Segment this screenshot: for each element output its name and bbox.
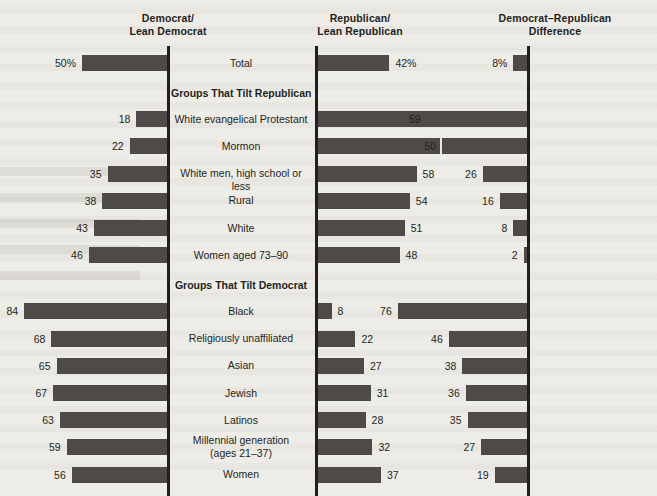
bar-republican bbox=[318, 467, 381, 483]
bar-difference bbox=[442, 138, 527, 154]
value-label-difference: 59 bbox=[363, 111, 421, 127]
bar-difference bbox=[495, 467, 527, 483]
group-heading: Groups That Tilt Democrat bbox=[171, 279, 311, 291]
value-label-difference: 35 bbox=[404, 412, 462, 428]
category-label: Millennial generation (ages 21–37) bbox=[172, 434, 310, 460]
bar-democrat bbox=[67, 439, 167, 455]
value-label-democrat: 43 bbox=[30, 220, 88, 236]
bar-republican bbox=[318, 439, 372, 455]
axis-line-democrat bbox=[167, 46, 170, 496]
value-label-difference: 8% bbox=[449, 55, 507, 71]
value-label-difference: 26 bbox=[419, 166, 477, 182]
category-label: Asian bbox=[172, 359, 310, 372]
value-label-democrat: 18 bbox=[72, 111, 130, 127]
value-label-difference: 16 bbox=[436, 193, 494, 209]
bar-difference bbox=[468, 412, 528, 428]
bar-republican bbox=[318, 303, 332, 319]
bar-republican bbox=[318, 247, 400, 263]
value-label-democrat: 56 bbox=[8, 467, 66, 483]
bar-democrat bbox=[51, 331, 167, 347]
value-label-difference: 19 bbox=[431, 467, 489, 483]
value-label-democrat: 22 bbox=[66, 138, 124, 154]
category-label: Mormon bbox=[172, 140, 310, 153]
bar-republican bbox=[318, 220, 405, 236]
value-label-difference: 46 bbox=[385, 331, 443, 347]
category-label: Jewish bbox=[172, 387, 310, 400]
value-label-democrat: 46 bbox=[25, 247, 83, 263]
value-label-democrat: 59 bbox=[3, 439, 61, 455]
bar-democrat bbox=[94, 220, 167, 236]
value-label-difference: 76 bbox=[334, 303, 392, 319]
group-heading: Groups That Tilt Republican bbox=[171, 87, 311, 99]
bar-republican bbox=[318, 166, 417, 182]
category-label: Women bbox=[172, 468, 310, 481]
value-label-difference: 38 bbox=[398, 358, 456, 374]
value-label-difference: 8 bbox=[449, 220, 507, 236]
value-label-democrat: 68 bbox=[0, 331, 45, 347]
bar-democrat bbox=[53, 385, 167, 401]
category-label: Rural bbox=[172, 194, 310, 207]
value-label-democrat: 50% bbox=[18, 55, 76, 71]
bar-republican bbox=[318, 331, 355, 347]
bar-difference bbox=[449, 331, 527, 347]
category-label: Black bbox=[172, 305, 310, 318]
bar-democrat bbox=[57, 358, 168, 374]
bar-democrat bbox=[24, 303, 167, 319]
category-label: Total bbox=[172, 57, 310, 70]
value-label-democrat: 38 bbox=[38, 193, 96, 209]
bar-difference bbox=[427, 111, 527, 127]
bar-difference bbox=[481, 439, 527, 455]
value-label-democrat: 67 bbox=[0, 385, 47, 401]
category-label: Women aged 73–90 bbox=[172, 249, 310, 262]
category-label: White men, high school or less bbox=[172, 167, 310, 193]
value-label-republican: 42% bbox=[395, 55, 453, 71]
category-label: White evangelical Protestant bbox=[172, 113, 310, 126]
bar-democrat bbox=[72, 467, 167, 483]
bar-democrat bbox=[130, 138, 167, 154]
column-header-difference: Democrat–Republican Difference bbox=[455, 12, 655, 38]
value-label-difference: 27 bbox=[417, 439, 475, 455]
bar-democrat bbox=[102, 193, 167, 209]
bar-democrat bbox=[82, 55, 167, 71]
value-label-difference: 50 bbox=[378, 138, 436, 154]
axis-line-difference bbox=[527, 46, 530, 496]
bar-republican bbox=[318, 358, 364, 374]
category-label: Religiously unaffiliated bbox=[172, 332, 310, 345]
bar-republican bbox=[318, 193, 410, 209]
bar-difference bbox=[466, 385, 527, 401]
axis-line-republican bbox=[315, 46, 318, 496]
bar-difference bbox=[483, 166, 527, 182]
category-label: White bbox=[172, 222, 310, 235]
bar-democrat bbox=[136, 111, 167, 127]
bar-democrat bbox=[60, 412, 167, 428]
value-label-democrat: 63 bbox=[0, 412, 54, 428]
column-header-republican: Republican/ Lean Republican bbox=[250, 12, 470, 38]
bar-difference bbox=[513, 220, 527, 236]
bar-difference bbox=[500, 193, 527, 209]
bar-difference bbox=[462, 358, 527, 374]
value-label-democrat: 35 bbox=[44, 166, 102, 182]
value-label-difference: 36 bbox=[402, 385, 460, 401]
value-label-republican: 48 bbox=[406, 247, 464, 263]
bar-democrat bbox=[89, 247, 167, 263]
bar-democrat bbox=[108, 166, 168, 182]
value-label-democrat: 84 bbox=[0, 303, 18, 319]
bar-republican bbox=[318, 412, 366, 428]
value-label-difference: 2 bbox=[460, 247, 518, 263]
column-header-democrat: Democrat/ Lean Democrat bbox=[58, 12, 278, 38]
bar-difference bbox=[513, 55, 527, 71]
bar-republican bbox=[318, 55, 389, 71]
value-label-democrat: 65 bbox=[0, 358, 51, 374]
bar-republican bbox=[318, 385, 371, 401]
category-label: Latinos bbox=[172, 414, 310, 427]
bar-difference bbox=[398, 303, 527, 319]
